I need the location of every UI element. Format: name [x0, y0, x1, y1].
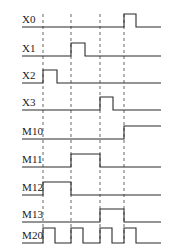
signal-label-group: X0X1X2X3M10M11M12M13M20: [22, 13, 43, 241]
signal-label-x0: X0: [22, 13, 36, 25]
signal-label-x2: X2: [22, 69, 36, 81]
signal-label-m11: M11: [22, 153, 43, 165]
signal-label-m13: M13: [22, 208, 43, 220]
timing-diagram: X0X1X2X3M10M11M12M13M20: [0, 0, 170, 251]
waveform-canvas: X0X1X2X3M10M11M12M13M20: [0, 0, 170, 251]
signal-label-m12: M12: [22, 181, 43, 193]
waveform-x2: [22, 70, 161, 83]
signal-label-x1: X1: [22, 42, 36, 54]
signal-label-x3: X3: [22, 96, 36, 108]
signal-label-m10: M10: [22, 125, 43, 137]
signal-label-m20: M20: [22, 229, 43, 241]
